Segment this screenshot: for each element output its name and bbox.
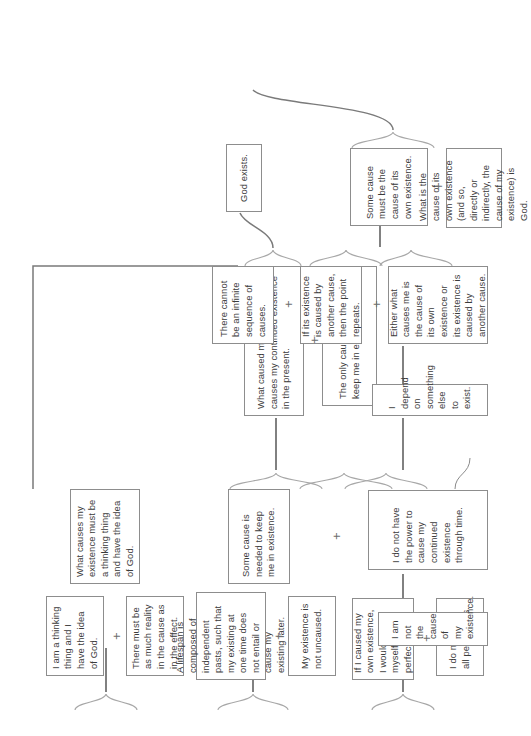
conjunction-4: + [308, 336, 321, 344]
node-cause-thinking: What causes my existence must be a think… [70, 489, 140, 584]
conjunction-5: + [420, 634, 433, 642]
node-text: I do not have the power to cause my cont… [390, 497, 466, 563]
node-text: Some cause is needed to keep me in exist… [240, 496, 278, 577]
node-text: There cannot be an infinite sequence of … [218, 273, 268, 337]
node-text: My existence is not uncaused. [299, 603, 324, 669]
node-thinking-thing: I am a thinking thing and I have the ide… [46, 596, 104, 676]
conjunction-3: + [330, 532, 343, 540]
node-text: If its existence is caused by another ca… [300, 273, 363, 337]
node-no-power: I do not have the power to cause my cont… [368, 490, 488, 570]
conjunction-8: + [432, 182, 445, 190]
node-text: I am a thinking thing and I have the ide… [50, 603, 100, 669]
node-what-is-cause: What is the cause of its own existence (… [446, 148, 502, 228]
node-some-cause-own: Some cause must be the cause of its own … [350, 148, 428, 226]
conjunction-1: + [110, 632, 123, 640]
node-text: Either what causes me is the cause of it… [388, 273, 489, 337]
conjunction-7: + [282, 300, 295, 308]
node-if-caused-repeats: If its existence is caused by another ca… [300, 266, 362, 344]
node-text: Some cause must be the cause of its own … [364, 155, 414, 219]
conjunction-2: + [272, 632, 285, 640]
conjunction-6: + [370, 300, 383, 308]
node-some-cause-keep: Some cause is needed to keep me in exist… [228, 489, 290, 584]
node-text: What causes my existence must be a think… [74, 496, 137, 577]
node-text: There must be as much reality in the cau… [130, 603, 180, 669]
node-text: God exists. [238, 151, 251, 205]
node-text: I depend on something else to exist. [386, 391, 474, 409]
node-depend: I depend on something else to exist. [372, 384, 488, 416]
node-not-uncaused: My existence is not uncaused. [288, 596, 336, 676]
node-no-infinite: There cannot be an infinite sequence of … [212, 266, 274, 344]
node-either-what-causes: Either what causes me is the cause of it… [388, 266, 488, 344]
node-god-exists: God exists. [226, 144, 262, 212]
node-lifespan: A lifespan is composed of independent pa… [196, 592, 266, 680]
